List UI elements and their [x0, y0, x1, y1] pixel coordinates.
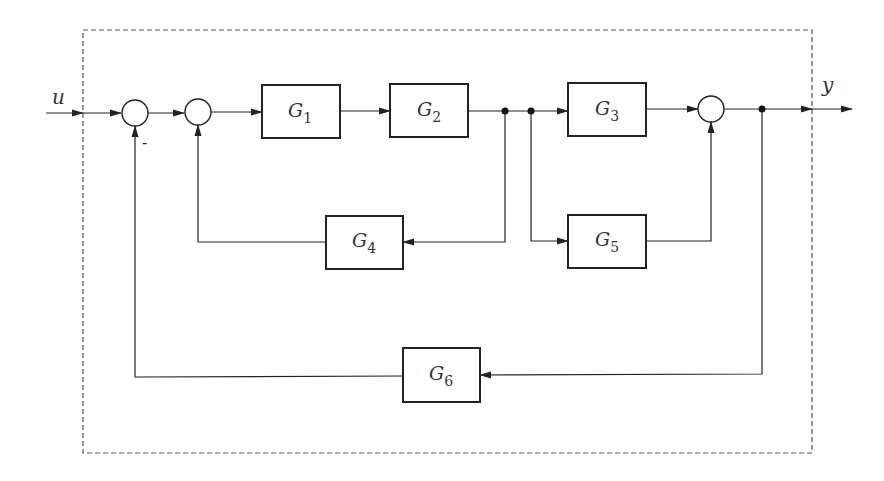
summing-junction-2 — [185, 99, 211, 125]
block-g1: G1 — [262, 85, 340, 138]
summing-junction-3 — [698, 96, 724, 122]
block-g6: G6 — [403, 348, 480, 402]
block-g2: G2 — [390, 84, 468, 137]
block-g3: G3 — [568, 83, 646, 136]
block-diagram: u - G1 G2 G3 y G4 — [0, 0, 884, 481]
link-g5-sum3 — [646, 122, 711, 241]
link-g2-g5 — [531, 111, 568, 241]
summing-junction-1 — [122, 100, 148, 126]
link-g4-sum2 — [198, 125, 326, 242]
block-g4: G4 — [326, 216, 403, 269]
input-label: u — [52, 85, 65, 109]
minus-sign: - — [142, 134, 147, 151]
output-label: y — [821, 73, 834, 97]
block-g5: G5 — [568, 215, 646, 268]
